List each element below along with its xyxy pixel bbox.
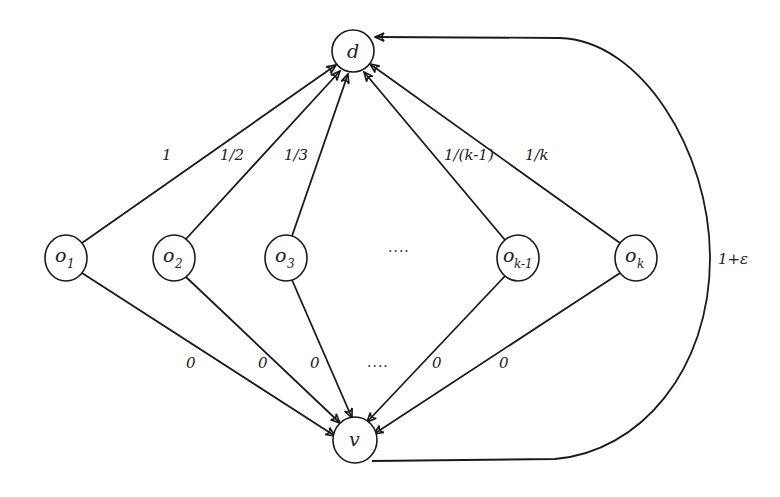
node-v: v [333, 417, 377, 463]
edge-label-o1-v: 0 [186, 354, 196, 372]
node-o3-sub: 3 [287, 257, 295, 271]
node-o2-label: o [163, 244, 174, 266]
edges-to-v [82, 273, 620, 436]
edge-o3-to-v [292, 280, 352, 418]
node-ok: o k [615, 235, 657, 281]
node-v-label: v [349, 428, 360, 450]
node-ok-sub: k [637, 257, 644, 271]
edge-v-to-d [372, 37, 710, 461]
graph-diagram: 1 1/2 1/3 1/(k-1) 1/k 0 0 0 0 0 1+ε ....… [0, 0, 780, 497]
node-o2: o 2 [153, 235, 195, 281]
node-ok1: o k-1 [497, 235, 539, 281]
edge-label-o3-d: 1/3 [284, 146, 308, 164]
edge-label-v-d: 1+ε [718, 250, 748, 268]
node-ok1-sub: k-1 [514, 257, 533, 271]
bottom-ellipsis: .... [367, 354, 389, 370]
edge-labels-to-d: 1 1/2 1/3 1/(k-1) 1/k [162, 146, 549, 164]
edge-label-ok1-v: 0 [432, 354, 442, 372]
edge-label-o2-d: 1/2 [220, 146, 244, 164]
edge-label-o2-v: 0 [258, 354, 268, 372]
edge-label-ok-v: 0 [499, 354, 509, 372]
edge-ok-to-d [370, 64, 620, 243]
edge-label-o3-v: 0 [310, 354, 320, 372]
node-o1: o 1 [45, 235, 87, 281]
node-d: d [332, 30, 374, 72]
edge-labels-to-v: 0 0 0 0 0 [186, 354, 509, 372]
edge-ok-to-v [374, 273, 620, 434]
edge-o2-to-v [186, 277, 340, 423]
edge-ok1-to-v [367, 276, 505, 422]
edge-label-ok-d: 1/k [525, 146, 549, 164]
node-o2-sub: 2 [174, 257, 183, 271]
node-o3-label: o [275, 244, 286, 266]
edge-label-o1-d: 1 [162, 146, 172, 164]
node-d-label: d [347, 40, 359, 62]
middle-ellipsis: .... [388, 239, 410, 255]
node-o3: o 3 [265, 235, 307, 281]
edge-label-ok1-d: 1/(k-1) [444, 146, 494, 164]
node-ok-label: o [625, 244, 636, 266]
node-o1-label: o [55, 244, 66, 266]
node-o1-sub: 1 [67, 257, 75, 271]
node-ok1-label: o [503, 244, 514, 266]
